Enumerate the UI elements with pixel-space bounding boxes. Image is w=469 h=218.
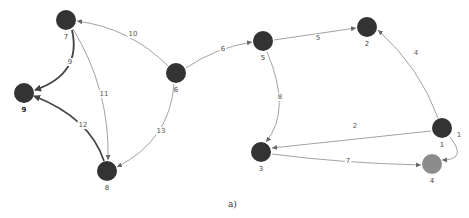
edge-weight-label: 10 [129, 30, 138, 38]
node-circle[interactable] [251, 142, 271, 162]
edge-weight-label: 8 [278, 93, 282, 101]
edge-line[interactable] [272, 131, 431, 148]
node-label: 6 [174, 86, 179, 94]
edge-weight-label: 6 [221, 45, 226, 53]
node-circle[interactable] [357, 17, 377, 37]
edge-weight-label: 2 [353, 122, 357, 130]
edge-7-to-8[interactable]: 11 [73, 29, 110, 160]
edge-line[interactable] [34, 96, 104, 161]
edge-6-to-8[interactable]: 13 [117, 84, 174, 167]
edge-1-to-2[interactable]: 4 [378, 30, 438, 118]
node-circle[interactable] [422, 154, 442, 174]
node-label: 8 [105, 184, 109, 192]
node-6[interactable]: 6 [166, 63, 186, 94]
edge-line[interactable] [442, 137, 457, 160]
edge-6-to-7[interactable]: 10 [77, 21, 168, 66]
edge-5-to-3[interactable]: 8 [266, 52, 283, 142]
node-circle[interactable] [166, 63, 186, 83]
node-label: 2 [365, 40, 369, 48]
edge-line[interactable] [77, 21, 168, 66]
edge-3-to-4[interactable]: 7 [272, 154, 421, 165]
edge-weight-label: 12 [79, 121, 88, 129]
node-label: 1 [440, 141, 444, 149]
edge-weight-label: 4 [414, 49, 419, 57]
edges-layer: 1091112136548271 [34, 21, 462, 167]
edge-weight-label: 13 [157, 127, 166, 135]
node-label: 3 [259, 165, 263, 173]
edge-8-to-9[interactable]: 12 [34, 96, 104, 161]
node-3[interactable]: 3 [251, 142, 271, 173]
edge-weight-label: 11 [100, 90, 109, 98]
edge-1-to-3[interactable]: 2 [272, 122, 431, 148]
edge-weight-label: 7 [346, 157, 350, 165]
node-circle[interactable] [97, 161, 117, 181]
node-label: 9 [22, 106, 27, 114]
graph-canvas: 1091112136548271 123456789 [0, 0, 469, 218]
node-circle[interactable] [14, 83, 34, 103]
edge-weight-label: 5 [316, 34, 320, 42]
node-4[interactable]: 4 [422, 154, 442, 185]
node-9[interactable]: 9 [14, 83, 34, 114]
node-circle[interactable] [253, 31, 273, 51]
edge-weight-label: 1 [457, 131, 461, 139]
node-label: 5 [261, 54, 265, 62]
node-8[interactable]: 8 [97, 161, 117, 192]
node-circle[interactable] [56, 10, 76, 30]
edge-weight-label: 9 [68, 58, 72, 66]
edge-line[interactable] [186, 42, 252, 68]
edge-6-to-5[interactable]: 6 [186, 42, 252, 68]
edge-5-to-2[interactable]: 5 [274, 28, 356, 42]
node-2[interactable]: 2 [357, 17, 377, 48]
edge-line[interactable] [117, 84, 174, 167]
node-label: 4 [430, 177, 435, 185]
edge-line[interactable] [378, 30, 438, 118]
node-1[interactable]: 1 [432, 118, 452, 149]
figure-caption: a) [228, 199, 237, 209]
node-label: 7 [64, 33, 68, 41]
node-5[interactable]: 5 [253, 31, 273, 62]
node-circle[interactable] [432, 118, 452, 138]
